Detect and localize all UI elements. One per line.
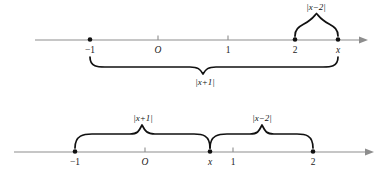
upper-brace-label-x-minus-2: |x−2| <box>306 2 326 12</box>
lower-brace-label-x-minus-2: |x−2| <box>252 113 272 123</box>
upper-point-minus-one <box>88 37 93 42</box>
upper-label-one: 1 <box>226 45 231 55</box>
lower-label-minus-one: −1 <box>70 157 80 167</box>
lower-brace-x-plus-1 <box>75 125 210 148</box>
upper-number-line: −1 O 1 2 x |x−2| |x+1| <box>35 2 368 87</box>
upper-brace-x-minus-2 <box>295 14 338 37</box>
lower-point-minus-one <box>73 149 78 154</box>
lower-brace-x-minus-2 <box>210 125 313 148</box>
upper-axis-arrow-icon <box>359 37 368 44</box>
upper-label-two: 2 <box>293 45 298 55</box>
lower-axis-arrow-icon <box>365 149 374 156</box>
lower-label-x: x <box>207 157 213 167</box>
lower-point-two <box>311 149 316 154</box>
lower-number-line: −1 O x 1 2 |x+1| |x−2| <box>14 113 374 167</box>
lower-label-two: 2 <box>311 157 316 167</box>
upper-brace-x-plus-1 <box>90 57 338 74</box>
upper-label-minus-one: −1 <box>85 45 95 55</box>
upper-brace-label-x-plus-1: |x+1| <box>195 77 215 87</box>
lower-label-one: 1 <box>231 157 236 167</box>
lower-brace-label-x-plus-1: |x+1| <box>133 113 153 123</box>
number-line-figure: −1 O 1 2 x |x−2| |x+1| −1 O x 1 2 |x+1| <box>0 0 385 180</box>
upper-point-two <box>293 37 298 42</box>
upper-label-x: x <box>335 45 341 55</box>
lower-label-origin: O <box>142 157 149 167</box>
lower-point-x <box>208 149 213 154</box>
upper-label-origin: O <box>155 45 162 55</box>
upper-point-x <box>336 37 341 42</box>
